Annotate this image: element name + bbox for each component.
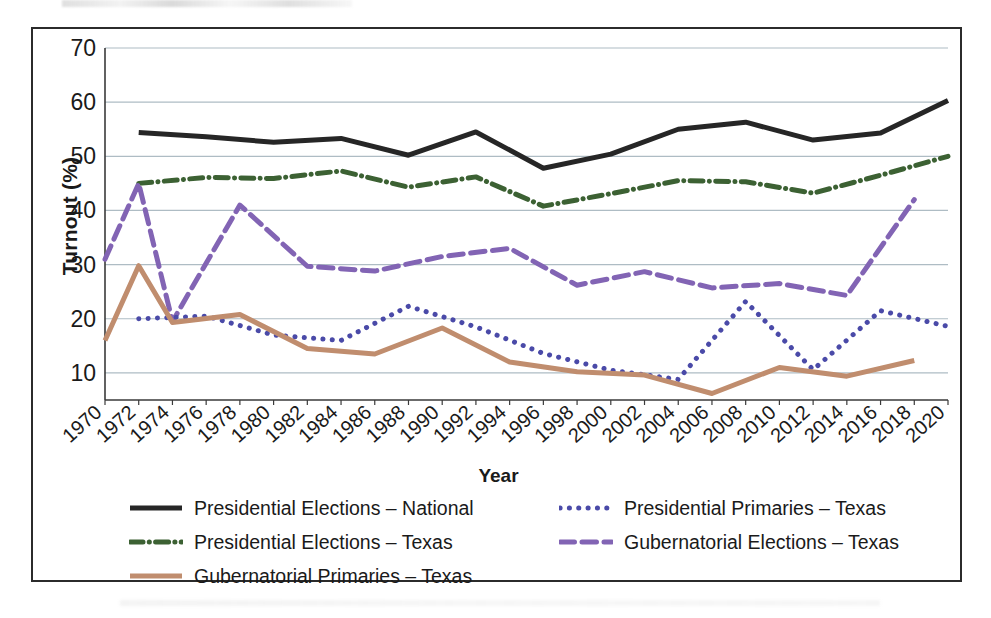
chart-svg: 1020304050607019701972197419761978198019…	[33, 29, 964, 459]
y-tick-label: 70	[70, 35, 96, 61]
series-line-gub_elec_tx	[105, 183, 914, 321]
legend-swatch-pres_prim_tx	[559, 501, 613, 515]
legend-swatch-gub_prim_tx	[129, 569, 183, 583]
figure-frame: 1020304050607019701972197419761978198019…	[31, 27, 962, 582]
legend-row: Presidential Elections – TexasGubernator…	[129, 525, 919, 559]
legend-swatch-pres_nat	[129, 501, 183, 515]
legend-item-pres_prim_tx[interactable]: Presidential Primaries – Texas	[559, 491, 919, 525]
scan-artifact-top	[62, 0, 352, 7]
legend-item-gub_prim_tx[interactable]: Gubernatorial Primaries – Texas	[129, 559, 559, 593]
y-tick-label: 10	[70, 360, 96, 386]
legend-label-gub_prim_tx: Gubernatorial Primaries – Texas	[194, 565, 472, 588]
legend-swatch-gub_elec_tx	[559, 535, 613, 549]
legend-label-pres_prim_tx: Presidential Primaries – Texas	[624, 497, 886, 520]
chart-legend: Presidential Elections – NationalPreside…	[129, 491, 919, 593]
series-line-pres_tx	[139, 156, 948, 206]
legend-item-pres_nat[interactable]: Presidential Elections – National	[129, 491, 559, 525]
legend-row: Presidential Elections – NationalPreside…	[129, 491, 919, 525]
y-tick-label: 60	[70, 89, 96, 115]
legend-item-gub_elec_tx[interactable]: Gubernatorial Elections – Texas	[559, 525, 919, 559]
x-axis-title: Year	[33, 465, 964, 487]
legend-label-pres_tx: Presidential Elections – Texas	[194, 531, 453, 554]
legend-item-pres_tx[interactable]: Presidential Elections – Texas	[129, 525, 559, 559]
y-axis-title: Turnout (%)	[58, 116, 82, 316]
series-line-pres_nat	[139, 101, 948, 169]
legend-label-gub_elec_tx: Gubernatorial Elections – Texas	[624, 531, 899, 554]
scan-artifact-bottom	[120, 600, 880, 606]
legend-label-pres_nat: Presidential Elections – National	[194, 497, 474, 520]
legend-swatch-pres_tx	[129, 535, 183, 549]
legend-row: Gubernatorial Primaries – Texas	[129, 559, 919, 593]
x-tick-label: 2020	[901, 401, 949, 447]
